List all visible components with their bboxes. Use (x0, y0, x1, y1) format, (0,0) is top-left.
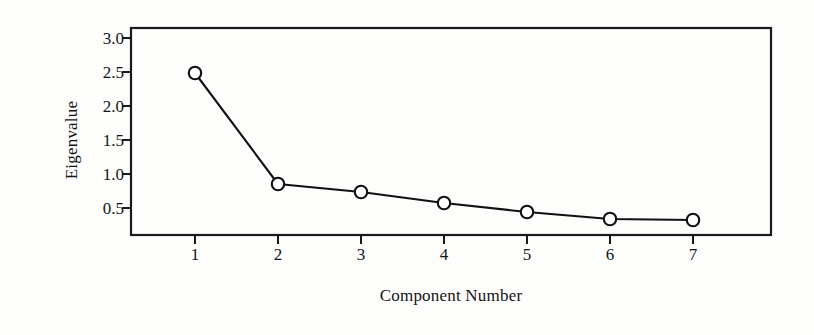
scree-plot-figure: 3.0 2.5 2.0 1.5 1.0 0.5 1 2 3 4 5 6 7 Ei… (0, 0, 814, 335)
x-tick-label: 4 (429, 246, 459, 263)
eigenvalue-series-markers (189, 67, 699, 226)
x-axis-ticks (195, 235, 693, 244)
data-point-marker (272, 178, 284, 190)
data-point-marker (521, 206, 533, 218)
data-point-marker (355, 186, 367, 198)
data-point-marker (604, 213, 616, 225)
x-tick-label: 5 (512, 246, 542, 263)
data-point-marker (189, 67, 201, 79)
data-point-marker (687, 214, 699, 226)
x-tick-label: 1 (180, 246, 210, 263)
x-tick-label: 3 (346, 246, 376, 263)
x-tick-label: 7 (678, 246, 708, 263)
data-point-marker (438, 197, 450, 209)
y-axis-title: Eigenvalue (62, 40, 82, 240)
x-axis-title: Component Number (131, 286, 771, 306)
x-tick-label: 6 (595, 246, 625, 263)
x-tick-label: 2 (263, 246, 293, 263)
